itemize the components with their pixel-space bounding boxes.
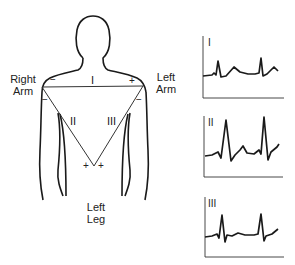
ecg-trace-lead-I <box>203 58 278 77</box>
ecg-panel-label-II: II <box>208 118 214 128</box>
ecg-trace-lead-II <box>205 117 279 161</box>
ecg-panel-label-I: I <box>208 38 211 48</box>
ecg-panel-label-III: III <box>208 199 216 209</box>
ecg-panel-lead-II <box>204 116 283 177</box>
ecg-panel-lead-I <box>203 36 284 98</box>
ecg-panels <box>0 0 295 265</box>
ecg-trace-lead-III <box>205 214 278 242</box>
ecg-panel-lead-III <box>205 197 284 257</box>
